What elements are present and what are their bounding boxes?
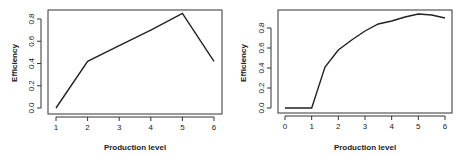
x-tick-label: 1 <box>309 122 314 131</box>
x-tick-label: 1 <box>54 123 59 132</box>
y-axis-label: Efficiency <box>239 44 248 82</box>
x-tick-label: 4 <box>149 123 154 132</box>
y-tick-label: 0.6 <box>27 35 36 47</box>
x-tick-label: 3 <box>117 123 122 132</box>
x-tick-label: 5 <box>180 123 185 132</box>
x-tick-label: 5 <box>416 122 421 131</box>
plot-frame <box>48 10 222 114</box>
y-tick-label: 0.8 <box>27 13 36 25</box>
y-tick-label: 0.2 <box>257 82 266 94</box>
y-axis: 0.00.20.40.60.8 <box>257 22 271 114</box>
right-efficiency-chart: 0.00.20.40.60.8 0123456 Production level… <box>239 10 452 152</box>
x-tick-label: 6 <box>443 122 448 131</box>
x-tick-label: 2 <box>336 122 341 131</box>
x-axis-label: Production level <box>334 143 396 152</box>
x-axis-label: Production level <box>104 143 166 152</box>
x-tick-label: 3 <box>363 122 368 131</box>
y-tick-label: 0.4 <box>257 62 266 74</box>
efficiency-line <box>285 14 445 108</box>
x-axis: 0123456 <box>283 116 448 131</box>
efficiency-line <box>56 13 214 108</box>
y-tick-label: 0.0 <box>27 102 36 114</box>
y-axis-label: Efficiency <box>10 44 19 82</box>
x-tick-label: 4 <box>389 122 394 131</box>
y-tick-label: 0.8 <box>257 22 266 34</box>
x-tick-label: 0 <box>283 122 288 131</box>
plot-frame <box>278 10 452 113</box>
x-axis: 123456 <box>54 117 217 132</box>
y-tick-label: 0.0 <box>257 102 266 114</box>
y-tick-label: 0.2 <box>27 80 36 92</box>
x-tick-label: 6 <box>212 123 217 132</box>
y-axis: 0.00.20.40.60.8 <box>27 13 41 114</box>
y-tick-label: 0.6 <box>257 42 266 54</box>
x-tick-label: 2 <box>85 123 90 132</box>
chart-canvas: 0.00.20.40.60.8 123456 Production level … <box>0 0 465 157</box>
left-efficiency-chart: 0.00.20.40.60.8 123456 Production level … <box>10 10 222 152</box>
y-tick-label: 0.4 <box>27 57 36 69</box>
